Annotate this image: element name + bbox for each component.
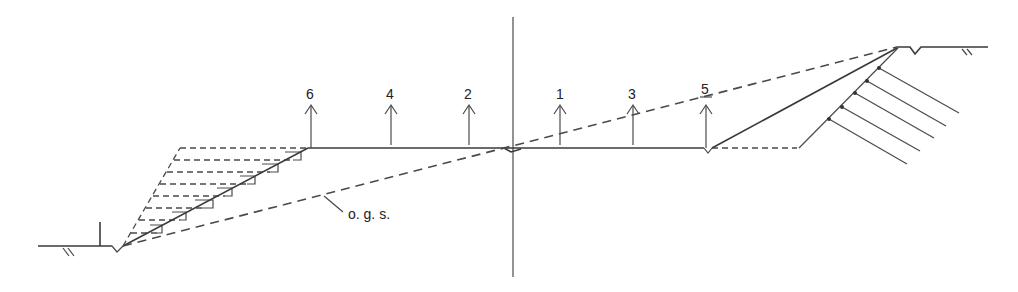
station-3: 3 — [627, 86, 639, 145]
fill-slope — [123, 148, 308, 246]
anchor-rods — [827, 66, 959, 164]
ogs-leader — [324, 196, 343, 212]
station-4: 4 — [385, 86, 397, 145]
right-ground-hatch-icon — [962, 49, 972, 55]
station-label-4: 4 — [386, 86, 394, 102]
right-ditch-icon — [704, 148, 712, 153]
cut-slope-upper — [712, 48, 897, 148]
ogs-label: o. g. s. — [348, 206, 390, 222]
left-ground-hatch-icon — [63, 248, 74, 256]
station-label-6: 6 — [306, 86, 314, 102]
cut-slope-lower — [799, 48, 898, 148]
original-ground-surface — [123, 47, 897, 246]
left-ditch-icon — [112, 246, 123, 252]
station-2: 2 — [463, 86, 475, 145]
station-5: 5 — [700, 81, 712, 148]
right-top-ground — [897, 47, 988, 54]
station-1: 1 — [554, 86, 566, 145]
station-label-5: 5 — [701, 81, 709, 97]
station-label-3: 3 — [628, 86, 636, 102]
station-label-1: 1 — [556, 86, 564, 102]
station-6: 6 — [305, 86, 317, 148]
cross-section-diagram: o. g. s. 6 4 2 1 3 5 — [0, 0, 1018, 292]
station-label-2: 2 — [464, 86, 472, 102]
